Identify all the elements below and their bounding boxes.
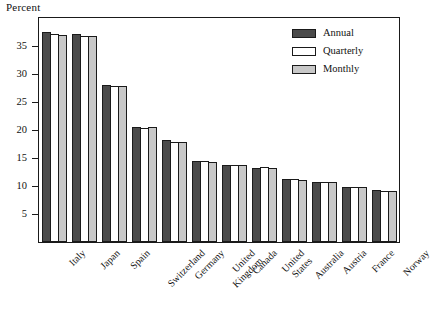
x-axis-label-line: Austria [341,248,369,276]
bar-group [221,165,248,242]
x-axis-label: Canada [251,248,280,277]
x-axis-label: Norway [401,248,431,278]
legend-swatch-icon [292,65,316,74]
bar [268,168,277,242]
bar-group [161,140,188,242]
bar-group [101,85,128,242]
bar [388,191,397,242]
x-axis-label: UnitedStates [280,248,314,282]
bar-group [251,167,278,242]
chart-legend: AnnualQuarterlyMonthly [292,26,363,80]
y-axis-tick-label: 10 [1,181,27,191]
bar [358,187,367,242]
y-axis-tick-label: 5 [1,209,27,219]
x-axis-label-line: France [370,248,397,275]
x-axis-label: Austria [341,248,369,276]
y-axis-tick [32,214,39,215]
y-axis-title: Percent [6,1,40,13]
y-axis-tick [32,158,39,159]
bar [118,86,127,242]
bar-group [41,32,68,242]
bar [328,182,337,242]
y-axis-tick-label: 15 [1,153,27,163]
x-axis-label-line: Spain [129,248,153,272]
bar-group [71,34,98,242]
x-axis-label-line: Canada [251,248,280,277]
bar-group [311,182,338,242]
bar [88,36,97,242]
y-axis-tick-label: 20 [1,125,27,135]
y-axis-tick [32,46,39,47]
y-axis-tick [32,102,39,103]
y-axis-tick [32,74,39,75]
bar [148,127,157,242]
x-axis-label-line: Norway [401,248,431,278]
bar-group [371,190,398,242]
x-axis-label: Spain [129,248,153,272]
bar [178,142,187,242]
legend-item-label: Monthly [323,64,359,75]
legend-item-label: Quarterly [323,46,363,57]
bar [208,162,217,242]
bar [238,165,247,242]
x-axis-label-line: Italy [67,248,87,268]
x-axis-label-line: Japan [99,248,123,272]
x-axis-label: Japan [99,248,123,272]
bar [298,180,307,242]
y-axis-tick [32,130,39,131]
bar-group [191,161,218,242]
legend-item[interactable]: Annual [292,26,363,40]
y-axis-tick-label: 30 [1,69,27,79]
x-axis-label-line: Australia [313,248,346,281]
x-axis-label: France [370,248,397,275]
bar-group [341,187,368,242]
bar [58,35,67,242]
legend-item-label: Annual [323,28,354,39]
legend-swatch-icon [292,29,316,38]
y-axis-tick-label: 25 [1,97,27,107]
x-axis-label: Italy [67,248,87,268]
legend-item[interactable]: Monthly [292,62,363,76]
bar-group [131,127,158,242]
y-axis-tick [32,186,39,187]
x-axis-label: Australia [313,248,346,281]
legend-swatch-icon [292,47,316,56]
bar-group [281,179,308,242]
legend-item[interactable]: Quarterly [292,44,363,58]
y-axis-tick-label: 35 [1,41,27,51]
